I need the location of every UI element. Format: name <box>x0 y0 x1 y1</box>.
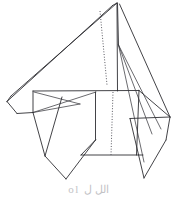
mid-horizontal-fold <box>33 91 139 92</box>
figure-background <box>0 0 177 199</box>
figure-container: ol الل ل <box>0 0 177 199</box>
figure-caption: ol الل ل <box>0 183 177 195</box>
origami-line-drawing <box>0 0 177 199</box>
